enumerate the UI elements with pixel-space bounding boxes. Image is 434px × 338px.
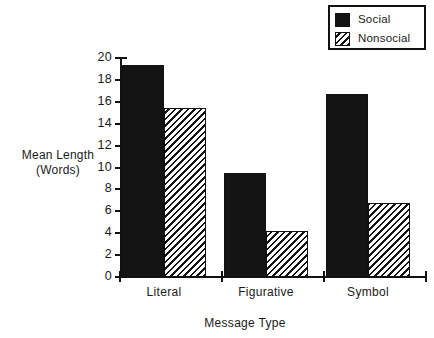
plot-area: 02468101214161820 LiteralFigurativeSymbo… bbox=[0, 0, 434, 338]
bar-literal-nonsocial bbox=[164, 108, 206, 277]
y-tick-label-18: 18 bbox=[72, 73, 112, 86]
y-tick-label-6: 6 bbox=[72, 204, 112, 217]
x-axis-title: Message Type bbox=[0, 316, 434, 330]
y-axis-title-line2: (Words) bbox=[8, 163, 108, 178]
category-label-symbol: Symbol bbox=[312, 285, 424, 299]
y-tick-label-20: 20 bbox=[72, 51, 112, 64]
y-tick-label-14: 14 bbox=[72, 117, 112, 130]
category-label-figurative: Figurative bbox=[210, 285, 322, 299]
x-tick-2 bbox=[323, 271, 325, 282]
x-tick-start bbox=[119, 271, 121, 282]
bar-symbol-social bbox=[326, 94, 368, 277]
y-tick-label-8: 8 bbox=[72, 182, 112, 195]
bar-literal-social bbox=[122, 65, 164, 277]
y-tick-label-16: 16 bbox=[72, 95, 112, 108]
y-tick-label-4: 4 bbox=[72, 226, 112, 239]
category-label-literal: Literal bbox=[108, 285, 220, 299]
bar-figurative-nonsocial bbox=[266, 231, 308, 277]
bar-symbol-nonsocial bbox=[368, 203, 410, 277]
bar-figurative-social bbox=[224, 173, 266, 277]
y-tick-label-2: 2 bbox=[72, 248, 112, 261]
y-axis-title: Mean Length (Words) bbox=[8, 148, 108, 178]
x-axis-title-text: Message Type bbox=[204, 316, 285, 330]
x-tick-1 bbox=[221, 271, 223, 282]
y-axis-title-line1: Mean Length bbox=[22, 148, 94, 162]
x-tick-end bbox=[425, 271, 427, 282]
y-tick-20 bbox=[115, 57, 127, 59]
bar-chart-figure: Social Nonsocial 02468101214161820 Liter… bbox=[0, 0, 434, 338]
y-tick-label-0: 0 bbox=[72, 270, 112, 283]
